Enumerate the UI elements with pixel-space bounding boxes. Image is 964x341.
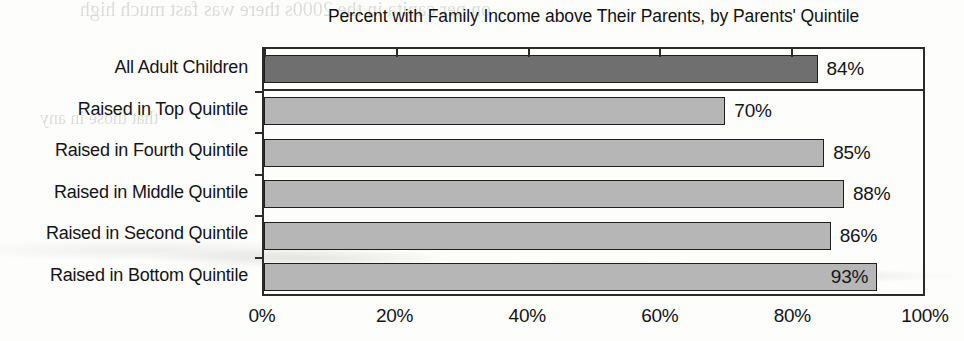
chart-title: Percent with Family Income above Their P…	[262, 6, 925, 27]
category-label: Raised in Middle Quintile	[0, 172, 255, 214]
bar-row: 70%	[264, 91, 923, 133]
y-axis-tick	[255, 132, 264, 134]
x-axis-tick-label: 60%	[641, 305, 678, 327]
bar-value-label: 70%	[734, 100, 771, 122]
x-axis-labels: 0% 20% 40% 60% 80% 100%	[262, 305, 925, 331]
x-axis-tick-label: 40%	[509, 305, 546, 327]
category-axis-labels: All Adult Children Raised in Top Quintil…	[0, 47, 255, 296]
x-axis-tick	[264, 49, 266, 57]
bar-value-label: 84%	[827, 58, 864, 80]
x-axis-tick-label: 80%	[774, 305, 811, 327]
bar-row: 93%	[264, 257, 923, 299]
plot-area: 84% 70% 85% 88% 86% 93%	[262, 47, 925, 296]
bar-raised-in-bottom-quintile	[264, 263, 877, 291]
x-axis-tick-label: 20%	[376, 305, 413, 327]
x-axis-tick	[791, 49, 793, 57]
bar-row: 88%	[264, 174, 923, 216]
bar-row: 84%	[264, 49, 923, 91]
bar-chart: Percent with Family Income above Their P…	[0, 0, 964, 341]
bar-value-label: 86%	[840, 225, 877, 247]
category-label: All Adult Children	[0, 47, 255, 89]
x-axis-tick	[659, 49, 661, 57]
category-label: Raised in Second Quintile	[0, 213, 255, 255]
bar-raised-in-top-quintile	[264, 97, 725, 125]
bar-raised-in-middle-quintile	[264, 180, 844, 208]
category-label: Raised in Fourth Quintile	[0, 130, 255, 172]
x-axis-tick	[396, 49, 398, 57]
bar-raised-in-fourth-quintile	[264, 139, 824, 167]
bar-value-label: 88%	[853, 183, 890, 205]
category-label: Raised in Bottom Quintile	[0, 255, 255, 297]
bar-raised-in-second-quintile	[264, 222, 831, 250]
bar-all-adult-children	[264, 55, 818, 83]
y-axis-tick	[255, 91, 264, 93]
y-axis-tick	[255, 257, 264, 259]
x-axis-tick-label: 100%	[901, 305, 948, 327]
x-axis-tick-label: 0%	[249, 305, 276, 327]
bar-row: 85%	[264, 132, 923, 174]
y-axis-tick	[255, 215, 264, 217]
x-axis-tick	[528, 49, 530, 57]
bar-value-label: 85%	[833, 142, 870, 164]
bar-row: 86%	[264, 215, 923, 257]
bar-value-label: 93%	[831, 266, 868, 288]
category-label: Raised in Top Quintile	[0, 89, 255, 131]
y-axis-tick	[255, 174, 264, 176]
